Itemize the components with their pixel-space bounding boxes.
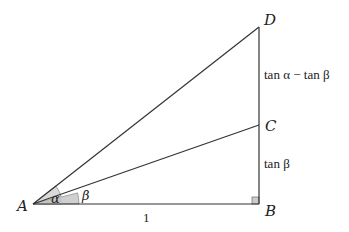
angle-label-beta: β bbox=[81, 188, 90, 203]
point-label-B: B bbox=[264, 202, 276, 220]
right-angle-marker bbox=[252, 197, 259, 204]
angle-label-alpha: α bbox=[51, 191, 60, 206]
triangle-diagram: A B C D α β 1 tan β tan α − tan β bbox=[0, 0, 349, 232]
segment-AC bbox=[33, 125, 259, 204]
edge-label-BC: tan β bbox=[264, 156, 290, 171]
segment-AD bbox=[33, 27, 259, 204]
point-label-C: C bbox=[265, 117, 277, 135]
point-label-A: A bbox=[15, 197, 28, 215]
point-label-D: D bbox=[263, 11, 276, 29]
edge-label-CD: tan α − tan β bbox=[264, 67, 330, 82]
edge-label-AB: 1 bbox=[143, 210, 150, 225]
